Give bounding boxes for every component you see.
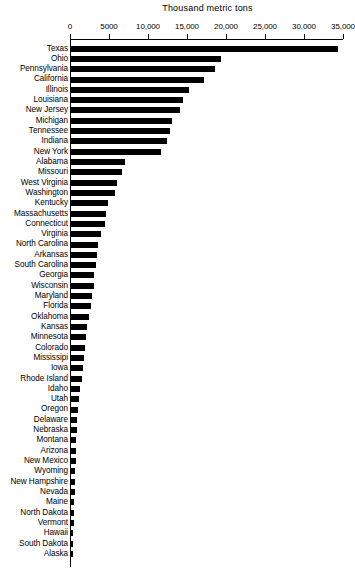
x-axis-tick — [187, 34, 188, 39]
chart-row: Tennessee — [0, 127, 351, 137]
chart-row: Wisconsin — [0, 281, 351, 291]
category-label: Florida — [43, 301, 68, 311]
category-label: Idaho — [48, 384, 68, 394]
bar — [71, 46, 338, 52]
chart-row: Illinois — [0, 85, 351, 95]
category-label: New Mexico — [24, 456, 68, 466]
bar — [71, 417, 77, 423]
bar — [71, 396, 79, 402]
category-label: Connecticut — [25, 219, 68, 229]
bar — [71, 355, 84, 361]
bar — [71, 138, 167, 144]
category-label: Texas — [47, 44, 68, 54]
bar — [71, 510, 74, 516]
bar — [71, 66, 215, 72]
bar — [71, 262, 96, 268]
category-label: Virginia — [41, 229, 68, 239]
x-axis-tick-label: 20,000 — [214, 22, 238, 31]
category-label: Oregon — [41, 404, 68, 414]
chart-row: South Dakota — [0, 539, 351, 549]
chart-row: Connecticut — [0, 219, 351, 229]
category-label: Louisiana — [33, 95, 68, 105]
bar — [71, 169, 122, 175]
bar — [71, 221, 105, 227]
chart-row: Louisiana — [0, 96, 351, 106]
category-label: North Dakota — [20, 508, 68, 518]
chart-row: Indiana — [0, 137, 351, 147]
category-label: South Carolina — [15, 260, 68, 270]
bar — [71, 448, 76, 454]
bar — [71, 314, 89, 320]
category-label: Vermont — [38, 518, 68, 528]
chart-row: West Virginia — [0, 178, 351, 188]
chart-row: Colorado — [0, 343, 351, 353]
category-label: Arizona — [41, 446, 68, 456]
bar — [71, 293, 92, 299]
bar — [71, 541, 73, 547]
chart-row: New York — [0, 147, 351, 157]
category-label: Wyoming — [34, 466, 68, 476]
category-label: New Hampshire — [10, 477, 68, 487]
chart-row: Maryland — [0, 292, 351, 302]
bar — [71, 242, 98, 248]
x-axis-tick-label: 10,000 — [136, 22, 160, 31]
category-label: Pennsylvania — [20, 64, 68, 74]
category-label: Rhode Island — [20, 374, 68, 384]
chart-row: Maine — [0, 498, 351, 508]
category-label: Alaska — [44, 549, 68, 559]
chart-row: California — [0, 75, 351, 85]
category-label: Iowa — [51, 363, 68, 373]
category-label: Ohio — [51, 54, 68, 64]
category-label: Illinois — [46, 85, 68, 95]
category-label: Kansas — [41, 322, 68, 332]
chart-row: South Carolina — [0, 261, 351, 271]
x-axis-tick-label: 35,000 — [331, 22, 355, 31]
chart-row: Virginia — [0, 230, 351, 240]
category-label: Georgia — [39, 270, 68, 280]
category-label: Oklahoma — [31, 312, 68, 322]
chart-row: Rhode Island — [0, 374, 351, 384]
x-axis-tick-label: 15,000 — [175, 22, 199, 31]
x-axis-tick — [265, 34, 266, 39]
chart-row: Nevada — [0, 487, 351, 497]
x-axis-tick — [343, 34, 344, 39]
x-axis-tick-label: 25,000 — [253, 22, 277, 31]
category-label: Utah — [51, 394, 68, 404]
bar — [71, 479, 75, 485]
chart-row: Massachusetts — [0, 209, 351, 219]
category-label: Tennessee — [29, 126, 68, 136]
bar — [71, 458, 76, 464]
chart-row: Missouri — [0, 168, 351, 178]
bar — [71, 97, 183, 103]
chart-row: North Carolina — [0, 240, 351, 250]
bar — [71, 386, 80, 392]
category-label: Arkansas — [34, 250, 68, 260]
chart-row: North Dakota — [0, 508, 351, 518]
chart-row: Montana — [0, 436, 351, 446]
bar — [71, 376, 82, 382]
x-axis-tick-label: 30,000 — [292, 22, 316, 31]
bar — [71, 283, 94, 289]
chart-row: Mississipi — [0, 353, 351, 363]
chart-row: Delaware — [0, 415, 351, 425]
bar — [71, 499, 74, 505]
bar — [71, 107, 180, 113]
plot-area: TexasOhioPennsylvaniaCaliforniaIllinoisL… — [0, 44, 351, 560]
category-label: California — [34, 74, 68, 84]
category-label: Delaware — [34, 415, 68, 425]
category-label: Mississipi — [33, 353, 68, 363]
bar — [71, 118, 172, 124]
category-label: Alabama — [36, 157, 68, 167]
chart-row: Ohio — [0, 54, 351, 64]
category-label: Nebraska — [33, 425, 68, 435]
bar — [71, 303, 91, 309]
chart-row: Washington — [0, 188, 351, 198]
chart-row: Wyoming — [0, 467, 351, 477]
bar — [71, 200, 108, 206]
category-label: Michigan — [36, 116, 68, 126]
chart-row: Iowa — [0, 364, 351, 374]
bar — [71, 551, 73, 557]
bar — [71, 190, 115, 196]
x-axis-tick — [109, 34, 110, 39]
bar — [71, 427, 77, 433]
